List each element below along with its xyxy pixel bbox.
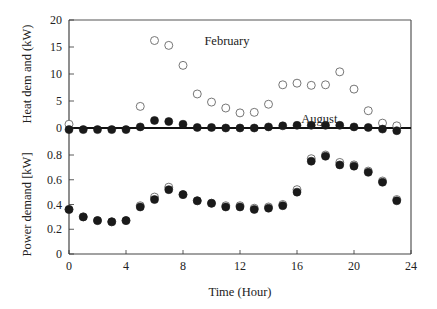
data-point-august: [94, 126, 102, 134]
heat-y-tick-label: 5: [56, 94, 62, 108]
heat-y-tick-label: 15: [50, 40, 62, 54]
data-point-august: [236, 124, 244, 132]
data-point-august: [379, 178, 387, 186]
data-point-august: [364, 123, 372, 131]
data-point-august: [179, 120, 187, 128]
labels: 04812162024Time (Hour)05101520Heat dem a…: [20, 13, 417, 299]
data-point-august: [250, 124, 258, 132]
data-point-august: [393, 127, 401, 135]
data-point-august: [94, 217, 102, 225]
data-point-february: [179, 61, 187, 69]
data-point-august: [293, 188, 301, 196]
annotation-august: August: [301, 112, 338, 126]
data-point-august: [350, 123, 358, 131]
data-point-august: [151, 116, 159, 124]
power-y-tick-label: 0.6: [47, 173, 62, 187]
data-point-august: [236, 203, 244, 211]
data-point-august: [279, 202, 287, 210]
data-point-february: [151, 37, 159, 45]
data-point-february: [364, 107, 372, 115]
x-tick-label: 4: [123, 259, 129, 273]
power-y-tick-label: 0.8: [47, 148, 62, 162]
x-tick-label: 24: [405, 259, 417, 273]
power-y-axis-label: Power demand [kW]: [20, 152, 34, 256]
data-point-february: [136, 102, 144, 110]
data-point-february: [222, 104, 230, 112]
axes: [69, 20, 411, 254]
x-tick-label: 16: [291, 259, 303, 273]
x-axis-label: Time (Hour): [208, 285, 271, 299]
annotation-february: February: [204, 34, 250, 48]
data-point-august: [79, 126, 87, 134]
heat-y-axis-label: Heat dem and (kW): [20, 25, 34, 124]
heat-y-tick-label: 0: [56, 121, 62, 135]
data-point-august: [122, 126, 130, 134]
x-tick-label: 12: [234, 259, 246, 273]
data-point-august: [350, 162, 358, 170]
data-point-august: [136, 123, 144, 131]
data-point-august: [379, 125, 387, 133]
data-point-august: [179, 191, 187, 199]
data-point-august: [250, 205, 258, 213]
data-point-february: [265, 100, 273, 108]
power-y-tick-label: 0.4: [47, 198, 62, 212]
data-point-february: [279, 81, 287, 89]
data-point-february: [336, 68, 344, 76]
power-y-tick-label: 0.2: [47, 222, 62, 236]
data-point-february: [307, 81, 315, 89]
data-point-august: [307, 157, 315, 165]
data-point-february: [208, 98, 216, 106]
data-point-august: [193, 197, 201, 205]
data-point-february: [165, 41, 173, 49]
data-point-august: [336, 161, 344, 169]
data-point-august: [79, 213, 87, 221]
data-point-february: [250, 108, 258, 116]
heat-y-tick-label: 20: [50, 13, 62, 27]
data-point-august: [108, 126, 116, 134]
data-point-august: [393, 197, 401, 205]
data-point-august: [165, 118, 173, 126]
data-point-august: [279, 122, 287, 130]
x-tick-label: 8: [180, 259, 186, 273]
data-point-august: [65, 205, 73, 213]
power-y-tick-label: 0: [56, 247, 62, 261]
data-point-august: [151, 196, 159, 204]
data-point-august: [165, 186, 173, 194]
data-points: [65, 37, 401, 226]
chart: 04812162024Time (Hour)05101520Heat dem a…: [0, 0, 437, 309]
data-point-august: [208, 199, 216, 207]
data-point-august: [136, 203, 144, 211]
data-point-august: [108, 218, 116, 226]
data-point-february: [236, 109, 244, 117]
data-point-august: [265, 123, 273, 131]
data-point-august: [222, 203, 230, 211]
data-point-august: [208, 123, 216, 131]
data-point-august: [122, 217, 130, 225]
data-point-february: [350, 85, 358, 93]
data-point-february: [322, 81, 330, 89]
data-point-february: [193, 90, 201, 98]
heat-y-tick-label: 10: [50, 67, 62, 81]
data-point-august: [222, 124, 230, 132]
data-point-august: [65, 126, 73, 134]
dual-panel-scatter-chart: 04812162024Time (Hour)05101520Heat dem a…: [0, 0, 437, 309]
data-point-february: [293, 79, 301, 87]
data-point-august: [322, 152, 330, 160]
data-point-august: [364, 168, 372, 176]
data-point-august: [293, 121, 301, 129]
data-point-august: [265, 204, 273, 212]
data-point-august: [193, 123, 201, 131]
x-tick-label: 0: [66, 259, 72, 273]
x-tick-label: 20: [348, 259, 360, 273]
